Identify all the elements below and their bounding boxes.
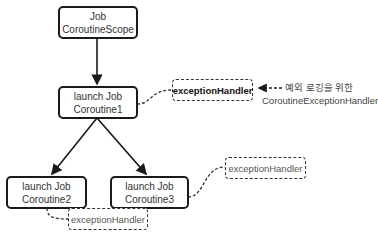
node-scope-line2: CoroutineScope <box>62 23 134 36</box>
handler-coroutine2: exceptionHandler <box>68 208 148 230</box>
connector-coroutine2-handler <box>47 208 68 219</box>
node-coroutine1-line1: launch Job <box>74 90 122 103</box>
node-coroutine3-line2: Coroutine3 <box>125 193 174 206</box>
node-coroutine2-line2: Coroutine2 <box>22 193 71 206</box>
node-coroutine2-line1: launch Job <box>22 180 70 193</box>
node-coroutine3: launch Job Coroutine3 <box>110 176 189 209</box>
handler-coroutine3: exceptionHandler <box>225 157 306 179</box>
connector-coroutine1-handler <box>137 90 172 104</box>
node-coroutine1-line2: Coroutine1 <box>74 103 123 116</box>
handler-coroutine1: exceptionHandler <box>172 79 253 101</box>
node-scope-line1: Job <box>90 10 106 23</box>
node-coroutine2: launch Job Coroutine2 <box>6 176 87 209</box>
node-coroutine3-line1: launch Job <box>125 180 173 193</box>
node-coroutine1: launch Job Coroutine1 <box>58 86 138 119</box>
connector-coroutine3-handler <box>188 167 225 197</box>
annotation-line2: CoroutineExceptionHandler <box>262 94 378 107</box>
handler-coroutine2-label: exceptionHandler <box>71 214 145 225</box>
edge-coroutine1-coroutine3 <box>97 118 146 174</box>
annotation-line1: 예외 로깅을 위한 <box>285 81 353 94</box>
edge-coroutine1-coroutine2 <box>52 118 97 174</box>
handler-coroutine3-label: exceptionHandler <box>229 163 303 174</box>
handler-coroutine1-label: exceptionHandler <box>173 85 253 96</box>
node-coroutine-scope: Job CoroutineScope <box>58 6 138 39</box>
